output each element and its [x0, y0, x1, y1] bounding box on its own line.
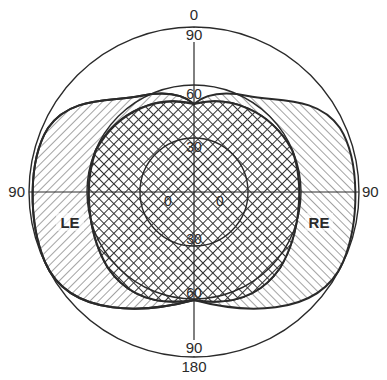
- label-left-90: 90: [8, 183, 25, 200]
- label-center-left: 0: [164, 193, 172, 209]
- label-right-90: 90: [362, 183, 379, 200]
- label-bottom-90: 90: [186, 339, 203, 356]
- label-bottom-60: 60: [186, 285, 202, 301]
- visual-field-diagram: 0 90 60 30 0 0 30 60 90 180 90 90 LE RE: [0, 0, 387, 380]
- label-top-60: 60: [186, 86, 202, 102]
- label-bottom-30: 30: [186, 231, 202, 247]
- label-top-outer: 0: [190, 6, 198, 23]
- label-top-30: 30: [186, 139, 202, 155]
- label-center-right: 0: [216, 193, 224, 209]
- label-top-90: 90: [186, 26, 203, 43]
- label-left-eye: LE: [60, 214, 79, 231]
- label-bottom-outer: 180: [181, 358, 206, 375]
- label-right-eye: RE: [309, 214, 330, 231]
